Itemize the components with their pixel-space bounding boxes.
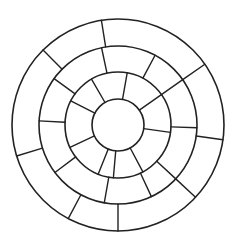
ring-2-circle bbox=[39, 46, 197, 204]
outer-band-divider bbox=[176, 179, 196, 197]
middle-band-divider bbox=[140, 173, 151, 197]
inner-band-divider bbox=[70, 136, 94, 147]
middle-band-divider bbox=[102, 48, 107, 73]
outer-band-divider bbox=[68, 195, 81, 219]
inner-band-divider bbox=[130, 148, 143, 172]
outer-band-divider bbox=[43, 50, 62, 69]
concentric-ring-diagram bbox=[0, 0, 238, 250]
ring-diagram-svg bbox=[0, 0, 238, 250]
inner-band-divider bbox=[123, 73, 128, 100]
middle-band-divider bbox=[171, 127, 197, 128]
inner-band-divider bbox=[98, 149, 108, 174]
middle-band-divider bbox=[157, 161, 176, 179]
outer-band-divider bbox=[196, 136, 223, 140]
middle-band-divider bbox=[104, 177, 109, 203]
inner-band-divider bbox=[113, 151, 115, 178]
spokes bbox=[17, 20, 223, 231]
middle-band-divider bbox=[54, 79, 75, 94]
outer-band-divider bbox=[101, 20, 105, 47]
outer-band-divider bbox=[183, 64, 205, 79]
ring-3-circle bbox=[65, 72, 171, 178]
inner-band-divider bbox=[71, 101, 95, 113]
inner-band-divider bbox=[139, 95, 161, 110]
middle-band-divider bbox=[143, 55, 155, 78]
inner-band-divider bbox=[92, 79, 106, 102]
middle-band-divider bbox=[39, 121, 65, 122]
middle-band-divider bbox=[55, 157, 76, 173]
outer-band-divider bbox=[17, 148, 43, 156]
middle-band-divider bbox=[161, 80, 182, 95]
inner-band-divider bbox=[144, 129, 171, 133]
inner-circle-circle bbox=[92, 99, 144, 151]
